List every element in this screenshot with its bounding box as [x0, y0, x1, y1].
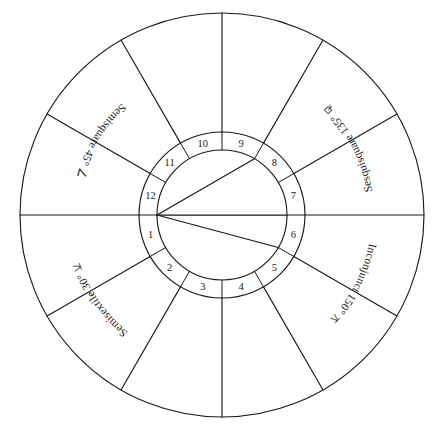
house-number-9: 9 — [239, 138, 244, 149]
aspect-label-text-sesquisquare: Sesquisquare 135° ⚼ — [320, 103, 374, 193]
aspect-label-sesquisquare: Sesquisquare 135° ⚼ — [320, 103, 374, 193]
aspect-lines — [157, 159, 287, 248]
ring-divider-2 — [150, 248, 166, 257]
house-number-7: 7 — [291, 190, 296, 201]
house-number-12: 12 — [145, 190, 156, 201]
house-number-6: 6 — [291, 229, 296, 240]
cusp-spoke-3 — [121, 287, 181, 390]
cusp-spoke-11 — [121, 40, 181, 143]
aspect-name-sesquisquare: Sesquisquare 135° — [326, 110, 374, 193]
ring-divider-11 — [181, 143, 190, 159]
aspect-name-inconjunct: Inconjunct 150° — [334, 243, 379, 320]
aspect-name-semisextile: Semisextile 30° — [73, 269, 129, 339]
house-number-3: 3 — [200, 281, 205, 292]
line-to-inconjunct — [157, 215, 278, 248]
aspect-label-text-semisquare: Semisquare 45° ∠ — [74, 102, 129, 181]
ring-divider-3 — [181, 271, 190, 287]
ring-divider-8 — [278, 174, 294, 183]
house-number-10: 10 — [198, 138, 209, 149]
aspect-label-inconjunct: Inconjunct 150° ⚻ — [328, 243, 379, 327]
cusp-spoke-5 — [264, 287, 324, 390]
aspect-label-semisquare: Semisquare 45° ∠ — [74, 102, 129, 181]
aspect-wheel-diagram: 123456789101112 Semisquare 45° ∠Sesquisq… — [0, 0, 442, 433]
house-number-1: 1 — [148, 229, 153, 240]
aspect-labels: Semisquare 45° ∠Sesquisquare 135° ⚼Incon… — [69, 102, 379, 340]
house-number-11: 11 — [165, 157, 175, 168]
house-number-5: 5 — [272, 262, 277, 273]
aspect-label-text-inconjunct: Inconjunct 150° ⚻ — [328, 243, 379, 327]
ring-divider-12 — [150, 174, 166, 183]
house-number-2: 2 — [167, 262, 172, 273]
ring-divider-5 — [255, 271, 264, 287]
cusp-spoke-9 — [264, 40, 324, 143]
house-number-8: 8 — [272, 157, 277, 168]
house-number-4: 4 — [239, 281, 245, 292]
ring-divider-6 — [278, 248, 294, 257]
wheel-canvas: 123456789101112 Semisquare 45° ∠Sesquisq… — [0, 0, 442, 433]
ring-divider-9 — [255, 143, 264, 159]
